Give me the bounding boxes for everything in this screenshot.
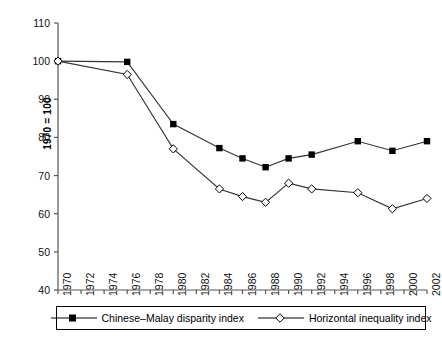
data-point-marker (124, 59, 130, 65)
legend-item-chinese-malay-disparity-index: Chinese–Malay disparity index (51, 312, 244, 324)
series-line-0 (58, 61, 427, 167)
data-point-marker (123, 70, 131, 78)
data-point-marker (355, 138, 361, 144)
data-point-marker (423, 194, 431, 202)
data-point-marker (424, 138, 430, 144)
legend-marker-open-diamond-icon (258, 312, 304, 324)
legend-marker-filled-square-icon (51, 312, 97, 324)
series-line-1 (58, 61, 427, 209)
data-point-marker (285, 155, 291, 161)
data-point-marker (388, 205, 396, 213)
data-point-marker (216, 145, 222, 151)
data-point-marker (309, 151, 315, 157)
data-point-marker (239, 155, 245, 161)
chart-legend: Chinese–Malay disparity index Horizontal… (56, 306, 426, 330)
legend-label: Chinese–Malay disparity index (102, 312, 244, 324)
data-point-marker (354, 189, 362, 197)
data-point-marker (170, 121, 176, 127)
data-point-marker (238, 192, 246, 200)
legend-item-horizontal-inequality-index: Horizontal inequality index (258, 312, 432, 324)
data-point-marker (262, 164, 268, 170)
legend-label: Horizontal inequality index (309, 312, 432, 324)
data-point-marker (308, 185, 316, 193)
data-point-marker (389, 148, 395, 154)
